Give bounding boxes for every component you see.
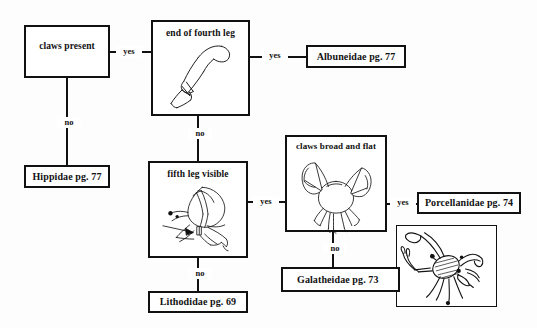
crab-claw-fourth-leg-drawing <box>153 36 248 118</box>
porcelain-crab-drawing <box>287 153 385 234</box>
node-lithodidae[interactable]: Lithodidae pg. 69 <box>148 291 248 313</box>
edge-label-yes-1: yes <box>116 46 142 57</box>
node-claws-present[interactable]: claws present <box>24 25 110 78</box>
edge-label-yes-4: yes <box>390 197 416 208</box>
node-claws-present-label: claws present <box>26 41 108 51</box>
node-porcellanidae[interactable]: Porcellanidae pg. 74 <box>417 192 521 214</box>
node-end-of-fourth-leg-label: end of fourth leg <box>153 28 248 38</box>
node-fifth-leg-visible-label: fifth leg visible <box>150 169 246 179</box>
node-lithodidae-label: Lithodidae pg. 69 <box>154 293 242 311</box>
edge-label-yes-2: yes <box>262 50 288 61</box>
node-porcellanidae-label: Porcellanidae pg. 74 <box>419 194 519 212</box>
node-fifth-leg-visible[interactable]: fifth leg visible <box>148 161 248 258</box>
node-hippidae-label: Hippidae pg. 77 <box>26 168 107 186</box>
edge-label-no-2: no <box>188 128 212 139</box>
squat-lobster-figure-box <box>396 225 497 307</box>
edge-label-no-1: no <box>57 117 81 128</box>
node-hippidae[interactable]: Hippidae pg. 77 <box>24 165 110 188</box>
hermit-crab-fifth-leg-drawing <box>150 179 246 260</box>
edge-label-no-3: no <box>188 268 212 279</box>
node-claws-broad-and-flat-label: claws broad and flat <box>287 142 385 152</box>
edge-fourth-leg-to-fifth-leg <box>197 116 199 161</box>
node-claws-broad-and-flat[interactable]: claws broad and flat <box>285 135 387 232</box>
edge-label-no-4: no <box>323 243 347 254</box>
node-galatheidae-label: Galatheidae pg. 73 <box>291 271 385 289</box>
edge-label-yes-3: yes <box>253 196 279 207</box>
node-end-of-fourth-leg[interactable]: end of fourth leg <box>151 20 250 116</box>
node-galatheidae[interactable]: Galatheidae pg. 73 <box>281 267 400 292</box>
squat-lobster-drawing <box>397 226 496 306</box>
node-albuneidae-label: Albuneidae pg. 77 <box>311 48 402 66</box>
dichotomous-key-diagram: yes no yes no yes no yes no <box>0 0 537 328</box>
node-albuneidae[interactable]: Albuneidae pg. 77 <box>306 45 406 68</box>
